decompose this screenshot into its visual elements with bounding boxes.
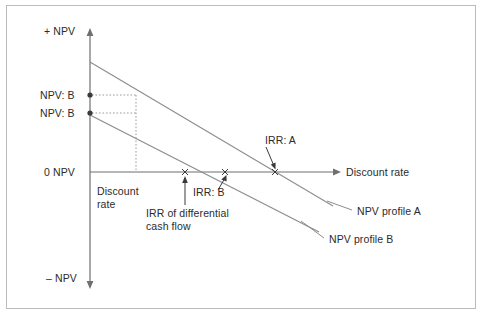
y-axis-top-label: + NPV	[44, 25, 75, 37]
npv-profile-a-label: NPV profile A	[357, 205, 421, 217]
npv-b-upper-label: NPV: B	[40, 89, 75, 101]
irr-b-label: IRR: B	[193, 186, 225, 198]
npv-b-upper-dot-marker	[87, 92, 92, 97]
irr-a-arrow-icon	[271, 163, 276, 170]
npv-profile-b-leader-line	[301, 221, 324, 238]
irr-differential-label-line1: IRR of differential	[146, 207, 229, 219]
chart-canvas	[0, 0, 483, 315]
irr-a-label: IRR: A	[265, 134, 296, 146]
npv-profile-a-leader-line	[327, 201, 352, 210]
npv-b-lower-dot-marker	[87, 110, 92, 115]
x-axis-right-arrow-icon	[333, 169, 341, 176]
npv-profile-b-label: NPV profile B	[329, 233, 393, 245]
npv-b-lower-label: NPV: B	[40, 107, 75, 119]
discount-rate-annotation-line1: Discount	[97, 185, 139, 197]
irr-a-leader-line	[266, 147, 274, 166]
zero-npv-label: 0 NPV	[44, 166, 75, 178]
irr-differential-label-line2: cash flow	[146, 220, 191, 232]
y-axis-bottom-label: – NPV	[46, 272, 77, 284]
y-axis-bottom-arrow-icon	[87, 281, 94, 289]
y-axis-top-arrow-icon	[87, 28, 94, 36]
x-axis-label: Discount rate	[346, 166, 409, 178]
discount-rate-annotation-line2: rate	[97, 198, 116, 210]
npv-profile-chart-figure: + NPV – NPV NPV: B NPV: B 0 NPV Discount…	[0, 0, 483, 315]
irr-differential-arrow-icon	[182, 176, 188, 183]
